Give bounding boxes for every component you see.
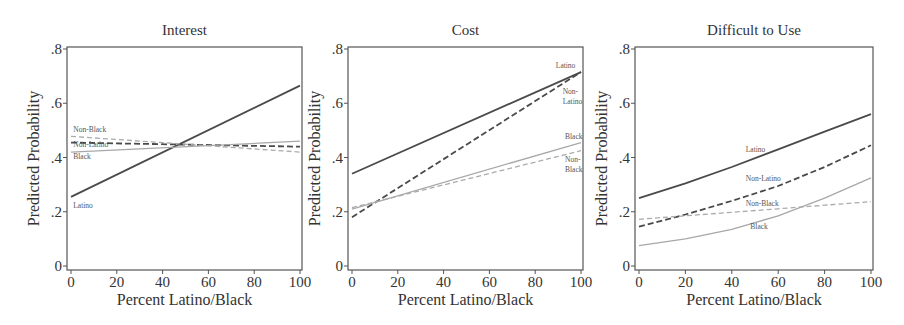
y-tick-label: .8	[51, 41, 62, 57]
x-axis-title: Percent Latino/Black	[686, 291, 822, 308]
y-tick-label: .4	[332, 150, 344, 166]
x-tick-label: 60	[771, 274, 786, 290]
panel-difficult-to-use: Difficult to Use0.2.4.6.8020406080100Per…	[593, 22, 882, 308]
y-tick-label: .2	[619, 204, 630, 220]
y-axis-title: Predicted Probability	[306, 91, 324, 227]
x-axis-title: Percent Latino/Black	[398, 291, 534, 308]
x-tick-label: 40	[155, 274, 170, 290]
y-tick-label: 0	[55, 258, 63, 274]
series-label-latino: Latino	[746, 145, 766, 154]
series-line-non-latino	[352, 72, 581, 217]
x-tick-label: 20	[678, 274, 693, 290]
y-tick-label: .8	[619, 41, 630, 57]
x-tick-label: 0	[67, 274, 75, 290]
x-tick-label: 20	[109, 274, 124, 290]
y-tick-label: 0	[623, 258, 631, 274]
series-label-black: Black	[750, 222, 768, 231]
y-tick-label: .6	[51, 95, 63, 111]
y-tick-label: .8	[332, 41, 343, 57]
panel-interest: Interest0.2.4.6.8020406080100Percent Lat…	[25, 22, 311, 308]
x-tick-label: 80	[247, 274, 262, 290]
plot-frame	[67, 47, 302, 270]
series-label-non-latino: Non-Latino	[746, 174, 781, 183]
panel-title: Difficult to Use	[707, 22, 801, 38]
panel-title: Cost	[452, 22, 480, 38]
series-line-black	[639, 178, 871, 246]
y-tick-label: .4	[619, 150, 631, 166]
series-label-latino: Latino	[556, 61, 576, 70]
y-tick-label: 0	[336, 258, 344, 274]
x-tick-label: 0	[635, 274, 643, 290]
x-tick-label: 0	[348, 274, 356, 290]
x-tick-label: 100	[570, 274, 593, 290]
y-tick-label: .6	[619, 95, 631, 111]
x-tick-label: 100	[860, 274, 883, 290]
figure: Interest0.2.4.6.8020406080100Percent Lat…	[0, 0, 904, 325]
series-label-non-latino: Non-Latino	[563, 87, 583, 106]
y-axis-title: Predicted Probability	[25, 91, 43, 227]
series-line-latino	[352, 72, 581, 174]
x-tick-label: 40	[436, 274, 451, 290]
x-tick-label: 100	[289, 274, 312, 290]
x-tick-label: 80	[817, 274, 832, 290]
panel-title: Interest	[162, 22, 208, 38]
y-axis-title: Predicted Probability	[593, 91, 611, 227]
series-label-non-black: Non-Black	[73, 125, 106, 134]
x-tick-label: 60	[482, 274, 497, 290]
series-label-black: Black	[73, 152, 91, 161]
series-label-latino: Latino	[73, 201, 93, 210]
x-tick-label: 40	[724, 274, 739, 290]
series-label-non-black: Non-Black	[565, 155, 583, 174]
y-tick-label: .6	[332, 95, 344, 111]
panel-cost: Cost0.2.4.6.8020406080100Percent Latino/…	[306, 22, 592, 308]
x-axis-title: Percent Latino/Black	[117, 291, 253, 308]
y-tick-label: .2	[51, 204, 62, 220]
y-tick-label: .4	[51, 150, 63, 166]
x-tick-label: 80	[528, 274, 543, 290]
y-tick-label: .2	[332, 204, 343, 220]
series-label-black: Black	[565, 132, 583, 141]
series-line-latino	[639, 114, 871, 198]
x-tick-label: 60	[201, 274, 216, 290]
series-label-non-black: Non-Black	[746, 199, 779, 208]
series-label-non-latino: Non-Latino	[73, 140, 108, 149]
x-tick-label: 20	[390, 274, 405, 290]
